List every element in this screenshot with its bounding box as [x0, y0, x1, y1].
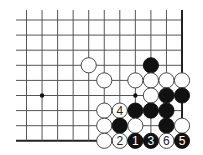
black-stone-move-5: 5 — [174, 133, 189, 148]
move-number-label: 5 — [179, 134, 186, 148]
white-stone — [97, 103, 112, 118]
white-stone — [159, 73, 174, 88]
white-stone — [128, 73, 143, 88]
black-stone — [143, 103, 158, 118]
move-number-label: 6 — [163, 134, 170, 148]
white-stone — [143, 73, 158, 88]
white-stone-move-4: 4 — [112, 103, 127, 118]
white-stone — [128, 118, 143, 133]
white-stone — [143, 88, 158, 103]
white-stone — [97, 133, 112, 148]
move-number-label: 4 — [116, 104, 123, 118]
black-stone — [159, 118, 174, 133]
black-stone — [112, 118, 127, 133]
black-stone — [143, 58, 158, 73]
white-stone — [97, 73, 112, 88]
black-stone — [174, 88, 189, 103]
move-number-label: 1 — [132, 134, 139, 148]
black-stone-move-3: 3 — [143, 133, 158, 148]
star-point-icon — [40, 93, 44, 97]
black-stone — [159, 88, 174, 103]
white-stone — [174, 73, 189, 88]
black-stone — [128, 103, 143, 118]
white-stone — [97, 118, 112, 133]
black-stone-move-1: 1 — [128, 133, 143, 148]
move-number-label: 3 — [148, 134, 155, 148]
white-stone — [174, 118, 189, 133]
star-point-icon — [133, 93, 137, 97]
white-stone-move-6: 6 — [159, 133, 174, 148]
white-stone — [81, 58, 96, 73]
black-stone — [159, 103, 174, 118]
white-stone-move-2: 2 — [112, 133, 127, 148]
move-number-label: 2 — [116, 134, 123, 148]
go-board-diagram: 421365 — [0, 0, 203, 155]
